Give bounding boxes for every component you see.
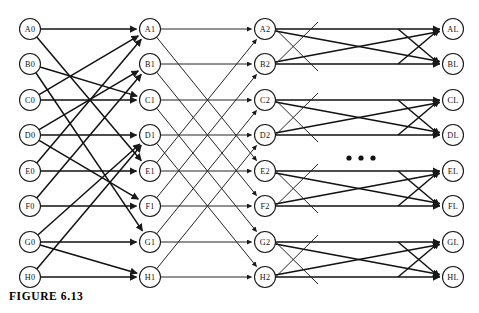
network-node-b0[interactable]: B0 [20, 54, 41, 75]
network-edge [38, 144, 140, 235]
network-node-f0[interactable]: F0 [20, 196, 41, 217]
network-node-al[interactable]: AL [443, 19, 464, 40]
network-node-d2[interactable]: D2 [255, 125, 276, 146]
network-edge [157, 145, 257, 268]
node-label: HL [447, 273, 458, 282]
node-label: FL [448, 202, 458, 211]
node-label: BL [448, 60, 459, 69]
node-label: AL [447, 25, 458, 34]
node-label: D0 [25, 131, 35, 140]
node-label: GL [447, 238, 458, 247]
network-node-gl[interactable]: GL [443, 232, 464, 253]
network-node-c0[interactable]: C0 [20, 90, 41, 111]
network-node-f1[interactable]: F1 [140, 196, 161, 217]
ellipsis-dot [346, 155, 351, 160]
network-node-c1[interactable]: C1 [140, 90, 161, 111]
network-node-bl[interactable]: BL [443, 54, 464, 75]
node-label: G0 [25, 238, 35, 247]
network-edge [157, 108, 257, 231]
network-node-f2[interactable]: F2 [255, 196, 276, 217]
network-edge [37, 39, 142, 163]
network-edge [157, 39, 257, 162]
network-node-cl[interactable]: CL [443, 90, 464, 111]
node-label: A1 [145, 25, 155, 34]
network-node-g1[interactable]: G1 [140, 232, 161, 253]
network-node-h0[interactable]: H0 [20, 267, 41, 288]
network-node-e1[interactable]: E1 [140, 161, 161, 182]
node-label: C1 [145, 96, 155, 105]
network-node-g0[interactable]: G0 [20, 232, 41, 253]
node-label: D1 [145, 131, 155, 140]
edge-layer [36, 22, 440, 284]
network-node-h1[interactable]: H1 [140, 267, 161, 288]
network-node-d1[interactable]: D1 [140, 125, 161, 146]
node-label: D2 [260, 131, 270, 140]
node-label: CL [448, 96, 459, 105]
network-edge [157, 143, 257, 266]
node-label: C0 [25, 96, 35, 105]
network-node-g2[interactable]: G2 [255, 232, 276, 253]
figure-caption: FIGURE 6.13 [9, 290, 83, 302]
network-node-b1[interactable]: B1 [140, 54, 161, 75]
node-label: F1 [145, 202, 154, 211]
node-label: G1 [145, 238, 155, 247]
node-label: A0 [25, 25, 35, 34]
ellipsis-dot [358, 155, 363, 160]
network-edge [157, 37, 257, 160]
node-label: B1 [145, 60, 155, 69]
ellipsis-dot [370, 155, 375, 160]
node-label: EL [448, 167, 458, 176]
node-label: A2 [260, 25, 270, 34]
network-node-c2[interactable]: C2 [255, 90, 276, 111]
network-node-el[interactable]: EL [443, 161, 464, 182]
network-node-e0[interactable]: E0 [20, 161, 41, 182]
ellipsis-group [346, 155, 375, 160]
network-edge [37, 74, 142, 198]
node-layer: A0B0C0D0E0F0G0H0A1B1C1D1E1F1G1H1A2B2C2D2… [20, 19, 464, 288]
network-node-a2[interactable]: A2 [255, 19, 276, 40]
network-node-a1[interactable]: A1 [140, 19, 161, 40]
node-label: F2 [260, 202, 269, 211]
network-edge [37, 37, 142, 161]
figure-container: A0B0C0D0E0F0G0H0A1B1C1D1E1F1G1H1A2B2C2D2… [0, 0, 479, 313]
node-label: F0 [25, 202, 34, 211]
node-label: H0 [25, 273, 35, 282]
node-label: B0 [25, 60, 35, 69]
node-label: E1 [145, 167, 155, 176]
network-edge [39, 36, 138, 95]
network-node-e2[interactable]: E2 [255, 161, 276, 182]
node-label: E2 [260, 167, 270, 176]
node-label: C2 [260, 96, 270, 105]
network-edge [40, 245, 137, 273]
node-label: DL [447, 131, 458, 140]
node-label: E0 [25, 167, 35, 176]
network-node-fl[interactable]: FL [443, 196, 464, 217]
network-edge [157, 110, 257, 233]
network-node-a0[interactable]: A0 [20, 19, 41, 40]
network-node-b2[interactable]: B2 [255, 54, 276, 75]
node-label: B2 [260, 60, 270, 69]
network-node-dl[interactable]: DL [443, 125, 464, 146]
node-label: H2 [260, 273, 270, 282]
node-label: G2 [260, 238, 270, 247]
network-edge [157, 74, 257, 197]
node-label: H1 [145, 273, 155, 282]
network-node-hl[interactable]: HL [443, 267, 464, 288]
network-edge [40, 67, 137, 96]
network-diagram: A0B0C0D0E0F0G0H0A1B1C1D1E1F1G1H1A2B2C2D2… [0, 0, 479, 313]
network-node-h2[interactable]: H2 [255, 267, 276, 288]
network-node-d0[interactable]: D0 [20, 125, 41, 146]
network-edge [157, 72, 257, 195]
